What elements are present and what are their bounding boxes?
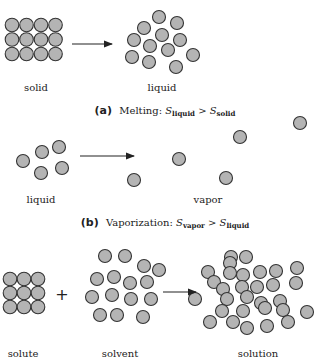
label-vapor: vapor: [194, 194, 223, 205]
particle: [144, 40, 157, 53]
particle: [143, 56, 156, 69]
particle: [221, 293, 234, 306]
particle: [125, 293, 138, 306]
particle: [290, 277, 303, 290]
particle: [126, 51, 139, 64]
particle: [261, 320, 274, 333]
particle: [17, 286, 31, 300]
particle: [291, 262, 304, 275]
plus-operator: +: [55, 285, 68, 304]
particle: [153, 11, 166, 24]
particle: [91, 273, 104, 286]
particle: [171, 17, 184, 30]
particle: [156, 29, 169, 42]
particle: [301, 306, 314, 319]
particle: [224, 267, 237, 280]
solid-lattice: [5, 18, 62, 61]
particle: [173, 153, 186, 166]
label-liquid-a: liquid: [148, 82, 177, 93]
particle: [20, 33, 34, 47]
liquid-cluster-a: [126, 11, 200, 74]
particle: [277, 304, 290, 317]
particle: [35, 167, 48, 180]
caption-vaporization: (b) Vaporization: Svapor > Sliquid: [81, 216, 249, 230]
particle: [282, 316, 295, 329]
particle: [49, 18, 63, 32]
particle: [162, 44, 175, 57]
particle: [241, 291, 254, 304]
particle: [5, 18, 19, 32]
particle: [17, 155, 30, 168]
particle: [17, 300, 31, 314]
label-solvent: solvent: [102, 348, 138, 359]
particle: [49, 33, 63, 47]
vapor-particles: [128, 117, 307, 187]
particle: [204, 316, 217, 329]
label-liquid-b: liquid: [27, 194, 56, 205]
relation: >: [198, 105, 206, 116]
particle: [241, 322, 254, 335]
particle: [267, 279, 280, 292]
solute-lattice: [3, 272, 45, 314]
particle: [53, 141, 66, 154]
entropy-diagram: [0, 0, 331, 364]
subscript: solid: [217, 109, 236, 118]
particle: [240, 251, 253, 264]
particle: [237, 269, 250, 282]
particle: [34, 33, 48, 47]
particle: [237, 305, 250, 318]
particle: [36, 146, 49, 159]
particle: [124, 277, 137, 290]
particle: [5, 47, 19, 61]
entropy-symbol: S: [220, 217, 227, 228]
caption-melting: (a) Melting: Sliquid > Ssolid: [95, 104, 236, 118]
particle: [3, 272, 17, 286]
particle: [216, 305, 229, 318]
subscript: liquid: [172, 109, 195, 118]
particle: [34, 47, 48, 61]
caption-tag: (b): [81, 216, 99, 229]
particle: [187, 49, 200, 62]
particle: [20, 18, 34, 32]
relation: >: [208, 217, 216, 228]
particle: [31, 286, 45, 300]
entropy-symbol: S: [165, 105, 172, 116]
particle: [254, 266, 267, 279]
particle: [128, 34, 141, 47]
particle: [94, 309, 107, 322]
particle: [259, 302, 272, 315]
particle: [138, 260, 151, 273]
particle: [270, 265, 283, 278]
particle: [5, 33, 19, 47]
particle: [153, 264, 166, 277]
particle: [138, 22, 151, 35]
label-solute: solute: [8, 348, 39, 359]
particle: [170, 61, 183, 74]
particle: [119, 250, 132, 263]
caption-tag: (a): [95, 104, 112, 117]
caption-title: Melting:: [119, 105, 162, 116]
particle: [31, 300, 45, 314]
particle: [34, 18, 48, 32]
particle: [234, 131, 247, 144]
particle: [189, 293, 202, 306]
particle: [3, 300, 17, 314]
particle: [251, 281, 264, 294]
particle: [108, 271, 121, 284]
particle: [111, 309, 124, 322]
particle: [128, 174, 141, 187]
particle: [31, 272, 45, 286]
particle: [49, 47, 63, 61]
label-solution: solution: [238, 348, 278, 359]
particle: [56, 162, 69, 175]
entropy-symbol: S: [210, 105, 217, 116]
solution-particles: [189, 251, 314, 335]
particle: [141, 276, 154, 289]
particle: [220, 172, 233, 185]
particle: [137, 311, 150, 324]
particle: [3, 286, 17, 300]
particle: [86, 291, 99, 304]
caption-title: Vaporization:: [106, 217, 173, 228]
particle: [145, 293, 158, 306]
particle: [99, 250, 112, 263]
